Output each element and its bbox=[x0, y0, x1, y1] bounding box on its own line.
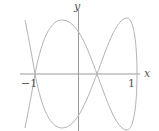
plot-canvas bbox=[0, 0, 159, 131]
tick-label-neg1: −1 bbox=[21, 78, 37, 89]
y-axis-label: y bbox=[74, 1, 80, 12]
x-axis-label: x bbox=[144, 68, 150, 79]
tick-label-1: 1 bbox=[128, 78, 135, 89]
